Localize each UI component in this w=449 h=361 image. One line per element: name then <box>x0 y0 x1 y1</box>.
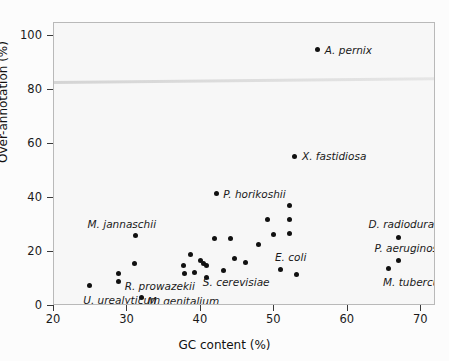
y-axis-tick <box>47 251 53 252</box>
x-axis-tick-label: 30 <box>119 314 134 326</box>
x-axis-tick-label: 70 <box>413 314 428 326</box>
y-axis-tick-label: 0 <box>0 300 42 312</box>
y-axis-tick <box>47 35 53 36</box>
x-axis-tick-label: 50 <box>266 314 281 326</box>
axis-ticks-layer: 020406080100203040506070 <box>0 0 449 361</box>
x-axis-tick-label: 60 <box>340 314 355 326</box>
y-axis-tick <box>47 89 53 90</box>
x-axis-tick <box>273 305 274 311</box>
scatter-plot-figure: U. urealyticumR. prowazekiiM. jannaschii… <box>0 0 449 361</box>
x-axis-tick-label: 20 <box>46 314 61 326</box>
x-axis-tick <box>420 305 421 311</box>
x-axis-tick <box>200 305 201 311</box>
y-axis-tick-label: 40 <box>0 192 42 204</box>
x-axis-tick <box>347 305 348 311</box>
y-axis-tick-label: 20 <box>0 246 42 258</box>
x-axis-title: GC content (%) <box>0 338 449 352</box>
x-axis-tick-label: 40 <box>193 314 208 326</box>
y-axis-tick <box>47 197 53 198</box>
x-axis-tick <box>126 305 127 311</box>
x-axis-tick <box>53 305 54 311</box>
y-axis-title: Over-annotation (%) <box>0 41 10 163</box>
y-axis-tick <box>47 143 53 144</box>
